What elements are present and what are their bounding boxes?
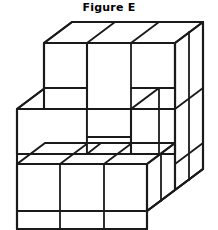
cube-stack-illustration <box>0 14 218 230</box>
figure-panel: Figure E <box>0 0 218 230</box>
middle-tier-notch <box>87 109 131 154</box>
figure-title: Figure E <box>0 1 218 15</box>
